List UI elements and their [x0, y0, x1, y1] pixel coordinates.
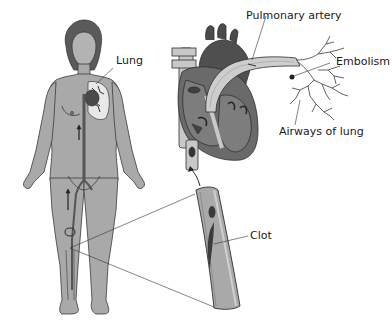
- clot-label: Clot: [250, 230, 272, 242]
- vein-segment-with-clot: [188, 166, 240, 309]
- pulmonary-artery-label: Pulmonary artery: [246, 10, 342, 22]
- airways-of-lung-label: Airways of lung: [279, 126, 364, 138]
- leg-left: [50, 178, 84, 314]
- embolism-spot: [290, 75, 295, 80]
- airways-leader-line: [295, 100, 300, 125]
- pulmonary-embolism-diagram: [0, 0, 392, 325]
- leg-right: [84, 178, 118, 314]
- face: [72, 32, 96, 66]
- lung-label: Lung: [116, 55, 143, 67]
- embolism-label: Embolism: [336, 56, 390, 68]
- pulmonary-artery-leader-line: [252, 16, 266, 60]
